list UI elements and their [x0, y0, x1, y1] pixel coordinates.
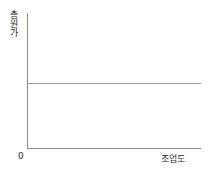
- x-axis-label: 조업도: [161, 152, 185, 165]
- y-axis-line: [27, 13, 28, 149]
- y-axis-label: 총원가: [6, 11, 21, 38]
- fixed-cost-line-chart: 총원가 조업도 0: [0, 0, 218, 173]
- x-axis-line: [27, 148, 201, 149]
- total-cost-series-line: [27, 83, 201, 84]
- origin-label: 0: [18, 151, 24, 161]
